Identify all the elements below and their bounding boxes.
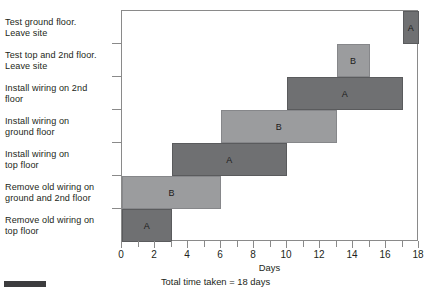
task-label-line-1: Test ground floor. <box>5 17 76 27</box>
task-label-line-1: Test top and 2nd floor. <box>5 50 97 60</box>
x-axis-tick-label: 10 <box>280 249 291 260</box>
task-label-line-1: Install wiring on 2nd <box>5 83 87 93</box>
task-label-line-1: Remove old wiring on <box>5 215 94 225</box>
x-axis-title: Days <box>121 262 418 273</box>
gantt-bar[interactable]: B <box>337 44 370 77</box>
x-axis: 024681012141618 <box>121 241 418 253</box>
gantt-bar[interactable]: A <box>403 11 420 44</box>
task-label-test-top-and-2nd-floor: Test top and 2nd floor. Leave site <box>5 50 118 73</box>
bar-resource-letter: B <box>350 56 356 66</box>
task-label-line-1: Install wiring on <box>5 149 69 159</box>
x-axis-tick-label: 8 <box>250 249 256 260</box>
task-label-line-2: ground and 2nd floor <box>5 193 118 204</box>
x-axis-tick <box>220 241 221 248</box>
task-label-install-wiring-top-floor: Install wiring on top floor <box>5 149 118 172</box>
task-label-line-2: Leave site <box>5 28 118 39</box>
plot-area: ABABABA <box>121 10 418 241</box>
bar-resource-letter: A <box>408 23 414 33</box>
x-axis-tick-label: 14 <box>346 249 357 260</box>
x-axis-tick-label: 6 <box>217 249 223 260</box>
x-axis-tick <box>369 241 370 247</box>
task-label-line-1: Install wiring on <box>5 116 69 126</box>
x-axis-tick-label: 4 <box>184 249 190 260</box>
task-label-line-2: top floor <box>5 226 118 237</box>
x-axis-tick <box>352 241 353 248</box>
x-axis-tick <box>319 241 320 248</box>
x-axis-tick-label: 12 <box>313 249 324 260</box>
bar-resource-letter: A <box>342 89 348 99</box>
task-label-line-2: Leave site <box>5 61 118 72</box>
x-axis-tick <box>303 241 304 247</box>
task-label-line-2: floor <box>5 94 118 105</box>
task-label-install-wiring-ground-floor: Install wiring on ground floor <box>5 116 118 139</box>
task-label-column: Test ground floor. Leave site Test top a… <box>0 0 118 245</box>
x-axis-tick <box>187 241 188 248</box>
gantt-bar[interactable]: A <box>122 209 172 242</box>
bar-resource-letter: A <box>144 221 150 231</box>
x-axis-tick-label: 16 <box>379 249 390 260</box>
x-axis-tick <box>418 241 419 248</box>
task-label-remove-old-wiring-ground-and-2nd: Remove old wiring on ground and 2nd floo… <box>5 182 118 205</box>
x-axis-tick <box>171 241 172 247</box>
x-axis-tick <box>286 241 287 248</box>
x-axis-tick-label: 18 <box>412 249 423 260</box>
gantt-chart: Test ground floor. Leave site Test top a… <box>0 0 431 289</box>
x-axis-tick <box>204 241 205 247</box>
x-axis-tick <box>121 241 122 248</box>
gantt-bar[interactable]: B <box>221 110 337 143</box>
task-label-line-2: ground floor <box>5 127 118 138</box>
x-axis-tick <box>154 241 155 248</box>
x-axis-tick-label: 2 <box>151 249 157 260</box>
chart-footnote: Total time taken = 18 days <box>0 276 431 287</box>
gantt-bar[interactable]: B <box>122 176 221 209</box>
x-axis-tick-label: 0 <box>118 249 124 260</box>
gantt-bar[interactable]: A <box>287 77 403 110</box>
bar-resource-letter: A <box>226 155 232 165</box>
bar-resource-letter: B <box>276 122 282 132</box>
task-label-test-ground-floor: Test ground floor. Leave site <box>5 17 118 40</box>
x-axis-tick <box>385 241 386 248</box>
x-axis-tick <box>138 241 139 247</box>
bar-resource-letter: B <box>168 188 174 198</box>
x-axis-tick <box>270 241 271 247</box>
task-label-install-wiring-2nd-floor: Install wiring on 2nd floor <box>5 83 118 106</box>
x-axis-tick <box>402 241 403 247</box>
task-label-line-1: Remove old wiring on <box>5 182 94 192</box>
x-axis-tick <box>336 241 337 247</box>
x-axis-tick <box>237 241 238 247</box>
task-label-line-2: top floor <box>5 160 118 171</box>
page-edge-artifact <box>4 281 46 287</box>
task-label-remove-old-wiring-top-floor: Remove old wiring on top floor <box>5 215 118 238</box>
x-axis-tick <box>253 241 254 248</box>
gantt-bar[interactable]: A <box>172 143 288 176</box>
